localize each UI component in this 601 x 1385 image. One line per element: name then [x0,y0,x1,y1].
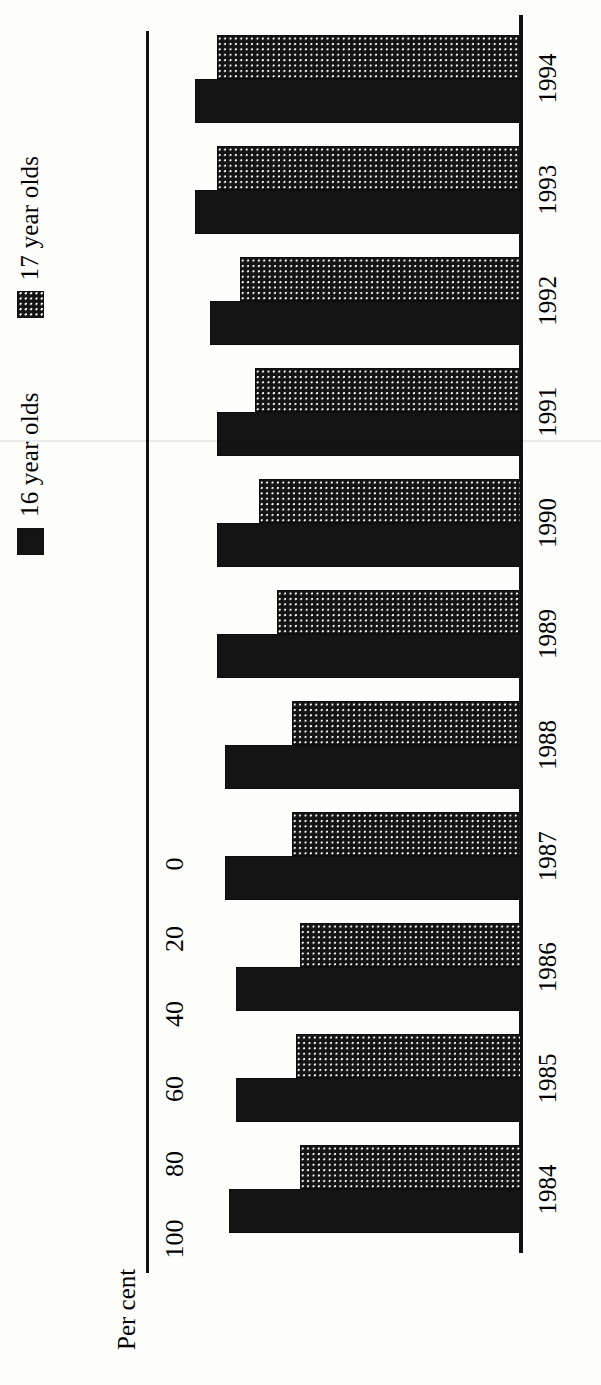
bar-1994-16-year-olds [195,79,521,123]
bar-1992-17-year-olds [240,257,521,301]
bar-1986-17-year-olds [300,923,521,967]
category-label-1990: 1990 [534,478,562,568]
bar-1986-16-year-olds [236,967,521,1011]
bar-1994-17-year-olds [217,35,521,79]
category-label-1991: 1991 [534,367,562,457]
bar-1988-17-year-olds [292,701,521,745]
bar-1991-16-year-olds [217,412,521,456]
value-tick-60: 60 [160,1059,190,1119]
bar-1988-16-year-olds [225,745,521,789]
rotated-chart-stage: 16 year olds 17 year olds Per cent 02040… [0,0,601,1385]
category-label-1993: 1993 [534,145,562,235]
bar-1987-16-year-olds [225,856,521,900]
bar-1985-16-year-olds [236,1078,521,1122]
bar-1993-17-year-olds [217,146,521,190]
plot-area: Per cent 020406080100 198419851986198719… [0,0,601,1385]
bar-1987-17-year-olds [292,812,521,856]
category-label-1989: 1989 [534,589,562,679]
value-tick-20: 20 [160,909,190,969]
category-label-1984: 1984 [534,1144,562,1234]
bar-1989-17-year-olds [277,590,521,634]
bar-1989-16-year-olds [217,634,521,678]
bar-1990-16-year-olds [217,523,521,567]
bar-1985-17-year-olds [296,1034,521,1078]
bar-1992-16-year-olds [210,301,521,345]
category-label-1994: 1994 [534,34,562,124]
value-tick-40: 40 [160,984,190,1044]
category-label-1987: 1987 [534,811,562,901]
bar-1993-16-year-olds [195,190,521,234]
value-tick-100: 100 [160,1209,190,1269]
category-label-1988: 1988 [534,700,562,790]
bar-1984-16-year-olds [229,1189,522,1233]
bar-1984-17-year-olds [300,1145,521,1189]
bar-1990-17-year-olds [259,479,522,523]
category-label-1986: 1986 [534,922,562,1012]
value-axis-line [146,31,149,1273]
value-tick-0: 0 [160,834,190,894]
chart-page: 16 year olds 17 year olds Per cent 02040… [0,0,601,1385]
category-label-1985: 1985 [534,1033,562,1123]
bar-1991-17-year-olds [255,368,521,412]
value-axis-title: Per cent [113,1269,141,1350]
category-label-1992: 1992 [534,256,562,346]
value-tick-80: 80 [160,1134,190,1194]
